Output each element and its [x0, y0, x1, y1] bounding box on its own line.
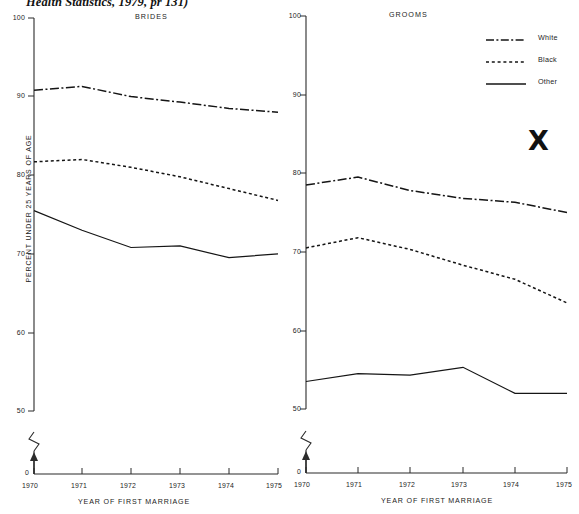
- brides-ylabel-90: 90: [3, 92, 25, 99]
- dash-dot-line-icon: [486, 38, 526, 42]
- dotted-line-icon: [486, 60, 526, 64]
- legend-label-black: Black: [538, 55, 557, 64]
- brides-axis-break-icon: [29, 432, 39, 451]
- grooms-y-arrow-head-icon: [302, 451, 310, 460]
- grooms-series-white: [306, 177, 567, 212]
- brides-series-white: [34, 86, 278, 112]
- grooms-axis-break-icon: [301, 431, 311, 450]
- brides-ylabel-100: 100: [3, 14, 25, 21]
- x-annotation-mark: X: [528, 127, 549, 154]
- brides-y-axis-label: PERCENT UNDER 25 YEARS OF AGE: [25, 129, 32, 289]
- brides-xlabel-1971: 1971: [71, 482, 87, 489]
- brides-y-arrow-head-icon: [30, 452, 38, 461]
- grooms-series-other: [306, 367, 567, 393]
- brides-ylabel-50: 50: [3, 407, 25, 414]
- brides-ylabel-80: 80: [3, 171, 25, 178]
- grooms-ylabel-60: 60: [279, 327, 301, 334]
- grooms-ylabel-100: 100: [279, 12, 301, 19]
- brides-series-other: [34, 211, 278, 258]
- grooms-xlabel-1971: 1971: [346, 481, 362, 488]
- grooms-ylabel-zero: 0: [297, 468, 301, 475]
- brides-ylabel-zero: 0: [25, 469, 29, 476]
- solid-line-icon: [486, 82, 526, 86]
- grooms-series-black: [306, 238, 567, 303]
- legend-label-other: Other: [538, 77, 557, 86]
- grooms-ylabel-90: 90: [279, 91, 301, 98]
- brides-xlabel-1973: 1973: [169, 482, 185, 489]
- brides-x-axis-label: YEAR OF FIRST MARRIAGE: [78, 498, 190, 506]
- chart-brides: [0, 0, 290, 514]
- brides-ylabel-60: 60: [3, 329, 25, 336]
- grooms-ylabel-70: 70: [279, 248, 301, 255]
- grooms-xlabel-1974: 1974: [503, 481, 519, 488]
- chart-grooms: [289, 0, 579, 514]
- grooms-ylabel-80: 80: [279, 169, 301, 176]
- grooms-xlabel-1970: 1970: [294, 481, 310, 488]
- grooms-ylabel-50: 50: [279, 405, 301, 412]
- brides-xlabel-1975: 1975: [266, 482, 282, 489]
- figure-container: Health Statistics, 1979, pr 131) BRIDES …: [0, 0, 579, 514]
- brides-xlabel-1974: 1974: [218, 482, 234, 489]
- grooms-xlabel-1973: 1973: [451, 481, 467, 488]
- brides-xlabel-1970: 1970: [22, 482, 38, 489]
- brides-ylabel-70: 70: [3, 250, 25, 257]
- grooms-x-axis-label: YEAR OF FIRST MARRIAGE: [381, 497, 493, 505]
- legend-label-white: White: [538, 33, 558, 42]
- brides-xlabel-1972: 1972: [120, 482, 136, 489]
- grooms-xlabel-1972: 1972: [399, 481, 415, 488]
- brides-series-black: [34, 160, 278, 201]
- grooms-xlabel-1975: 1975: [556, 481, 572, 488]
